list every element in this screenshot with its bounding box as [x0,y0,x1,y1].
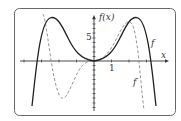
x-tick-label-1: 1 [109,64,115,73]
y-axis-arrow-icon [92,15,95,19]
y-axis-label: f(x) [99,13,114,22]
y-tick-label-5: 5 [86,33,92,42]
function-graph [0,0,181,121]
curve-label-f: f [151,39,154,48]
curve-label-f-prime: f′ [133,78,138,87]
x-axis-label: x [161,51,166,60]
